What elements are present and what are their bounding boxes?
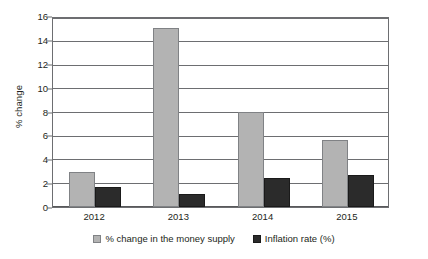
x-axis-tick-label: 2015 bbox=[336, 212, 357, 222]
bars-layer bbox=[53, 18, 388, 207]
bar-chart: % change 0246810121416 2012201320142015 … bbox=[0, 0, 428, 259]
x-axis-tick-label: 2012 bbox=[84, 212, 105, 222]
gridline bbox=[53, 88, 388, 89]
bar-group bbox=[238, 18, 290, 207]
gridline bbox=[53, 112, 388, 113]
bar bbox=[238, 112, 264, 208]
y-axis-tick-label: 2 bbox=[43, 179, 48, 189]
y-axis-tick-label: 16 bbox=[37, 12, 48, 22]
y-axis-tick-label: 6 bbox=[43, 132, 48, 142]
bar bbox=[69, 172, 95, 207]
y-axis-tick-label: 8 bbox=[43, 108, 48, 118]
bar-group bbox=[322, 18, 374, 207]
bar bbox=[322, 140, 348, 207]
bar-group bbox=[69, 18, 121, 207]
bar-group bbox=[153, 18, 205, 207]
bar bbox=[348, 175, 374, 207]
gridline bbox=[53, 18, 388, 19]
x-axis-tick-labels: 2012201320142015 bbox=[52, 212, 389, 228]
gridlines bbox=[53, 18, 388, 207]
bar bbox=[95, 187, 121, 207]
bar bbox=[179, 194, 205, 207]
legend-label: Inflation rate (%) bbox=[265, 234, 335, 244]
chart-legend: % change in the money supplyInflation ra… bbox=[0, 234, 428, 244]
y-axis-tick-label: 14 bbox=[37, 36, 48, 46]
y-axis-title: % change bbox=[8, 0, 30, 212]
gridline bbox=[53, 206, 388, 207]
y-axis-title-text: % change bbox=[14, 84, 25, 127]
plot-area bbox=[52, 17, 389, 208]
y-axis-tick-label: 10 bbox=[37, 84, 48, 94]
gridline bbox=[53, 159, 388, 160]
legend-entry: % change in the money supply bbox=[93, 234, 234, 244]
x-axis-tick-label: 2013 bbox=[168, 212, 189, 222]
y-axis-tick-label: 12 bbox=[37, 60, 48, 70]
bar bbox=[264, 178, 290, 207]
y-axis-tick-labels: 0246810121416 bbox=[28, 17, 48, 208]
y-axis-tick-label: 4 bbox=[43, 156, 48, 166]
legend-label: % change in the money supply bbox=[105, 234, 234, 244]
gridline bbox=[53, 41, 388, 42]
bar bbox=[153, 28, 179, 207]
legend-entry: Inflation rate (%) bbox=[253, 234, 335, 244]
gridline bbox=[53, 183, 388, 184]
legend-swatch-inflation bbox=[253, 235, 261, 243]
gridline bbox=[53, 65, 388, 66]
x-axis-tick-label: 2014 bbox=[252, 212, 273, 222]
gridline bbox=[53, 136, 388, 137]
y-axis-tick-label: 0 bbox=[43, 203, 48, 213]
legend-swatch-money-supply bbox=[93, 235, 101, 243]
